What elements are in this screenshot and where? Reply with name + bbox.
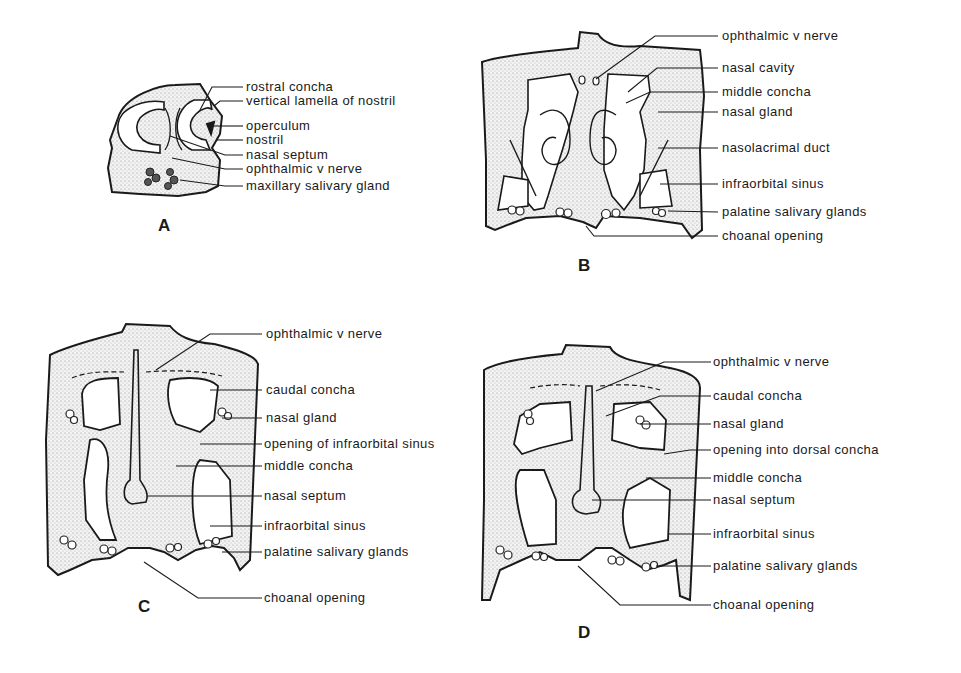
label-infraorbital-sinus: infraorbital sinus: [264, 519, 366, 533]
label-nasal-septum: nasal septum: [713, 493, 795, 507]
label-middle-concha: middle concha: [264, 459, 353, 473]
label-ophthalmic-v-nerve: ophthalmic v nerve: [266, 327, 382, 341]
label-nostril: nostril: [246, 133, 283, 147]
label-infraorbital-sinus: infraorbital sinus: [713, 527, 815, 541]
label-nasolacrimal-duct: nasolacrimal duct: [722, 141, 830, 155]
panel-letter-b: B: [578, 256, 590, 276]
label-ophthalmic-v-nerve: ophthalmic v nerve: [246, 162, 362, 176]
label-opening-of-infraorbital-sinus: opening of infraorbital sinus: [264, 437, 435, 451]
label-choanal-opening: choanal opening: [264, 591, 365, 605]
label-palatine-salivary-glands: palatine salivary glands: [713, 559, 858, 573]
label-middle-concha: middle concha: [722, 85, 811, 99]
label-nasal-gland: nasal gland: [266, 411, 337, 425]
label-caudal-concha: caudal concha: [266, 383, 355, 397]
panel-letter-c: C: [138, 597, 150, 617]
panel-letter-a: A: [158, 216, 170, 236]
label-palatine-salivary-glands: palatine salivary glands: [264, 545, 409, 559]
label-choanal-opening: choanal opening: [722, 229, 823, 243]
label-middle-concha: middle concha: [713, 471, 802, 485]
label-maxillary-salivary-gland: maxillary salivary gland: [246, 179, 390, 193]
panel-d-drawing: [482, 345, 700, 600]
label-rostral-concha: rostral concha: [246, 80, 333, 94]
label-nasal-septum: nasal septum: [246, 148, 328, 162]
label-infraorbital-sinus: infraorbital sinus: [722, 177, 824, 191]
label-ophthalmic-v-nerve: ophthalmic v nerve: [713, 355, 829, 369]
label-ophthalmic-v-nerve: ophthalmic v nerve: [722, 29, 838, 43]
label-operculum: operculum: [246, 119, 310, 133]
label-caudal-concha: caudal concha: [713, 389, 802, 403]
label-nasal-cavity: nasal cavity: [722, 61, 795, 75]
panel-b-drawing: [482, 32, 704, 238]
label-nasal-gland: nasal gland: [722, 105, 793, 119]
label-palatine-salivary-glands: palatine salivary glands: [722, 205, 867, 219]
panel-c-drawing: [46, 324, 258, 575]
label-opening-into-dorsal-concha: opening into dorsal concha: [713, 443, 879, 457]
label-choanal-opening: choanal opening: [713, 598, 814, 612]
panel-letter-d: D: [578, 623, 590, 643]
label-vertical-lamella-of-nostril: vertical lamella of nostril: [246, 94, 396, 108]
label-nasal-septum: nasal septum: [264, 489, 346, 503]
label-nasal-gland: nasal gland: [713, 417, 784, 431]
